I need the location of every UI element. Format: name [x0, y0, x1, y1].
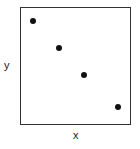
- data-point: [81, 72, 87, 78]
- x-axis-label: x: [73, 129, 79, 141]
- data-point: [30, 18, 36, 24]
- data-point: [56, 45, 62, 51]
- data-point: [115, 104, 121, 110]
- y-axis-label: y: [4, 59, 10, 71]
